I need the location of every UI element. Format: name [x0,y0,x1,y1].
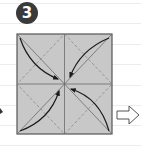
origami-diagram [0,0,141,147]
next-step-arrow-icon [117,106,139,124]
previous-arrow-fragment-icon [0,108,3,114]
